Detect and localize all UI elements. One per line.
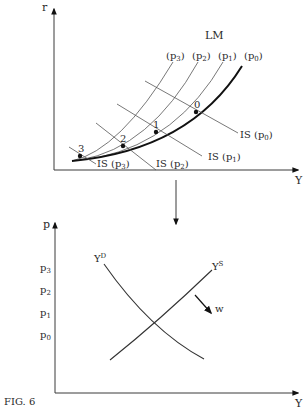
equilibrium-point-2 [121,144,125,148]
p-axis-label: p [43,218,50,231]
top-chart-is-lm: r Y LM (p3) (p2) (p1) (p0) IS (p0) [42,1,303,187]
lm-label-p1: (p1) [218,50,237,63]
is-label-p2: IS (p2) [156,158,189,171]
y-axis-top-label: Y [294,174,303,187]
price-tick-p0: p0 [40,329,51,342]
price-tick-p3: p3 [40,262,51,275]
lm-label-p0: (p0) [244,50,263,63]
lm-label-p3: (p3) [166,50,185,63]
aggregate-supply-curve [110,270,212,360]
is-label-p3: IS (p3) [97,158,130,171]
figure-caption: FIG. 6 [4,396,35,407]
r-axis-label: r [42,1,48,14]
wage-label: w [215,303,224,314]
fig-6-diagram: r Y LM (p3) (p2) (p1) (p0) IS (p0) [0,0,307,417]
equilibrium-point-1 [154,130,158,134]
equilibrium-point-3 [78,154,82,158]
lm-label: LM [205,29,224,42]
supply-label: YS [211,260,224,272]
lm-label-p2: (p2) [192,50,211,63]
price-tick-p1: p1 [40,307,51,320]
point-label-2: 2 [120,133,126,144]
bottom-chart-ad-as: p Y p3 p2 p1 p0 YD YS w [40,218,303,410]
demand-label: YD [93,252,107,264]
is-label-p1: IS (p1) [208,151,241,164]
point-label-1: 1 [153,119,159,130]
wage-shift-arrow-icon [195,295,211,313]
y-axis-bottom-label: Y [294,397,303,410]
aggregate-demand-curve [104,264,204,359]
equilibrium-point-0 [194,110,198,114]
price-tick-p2: p2 [40,284,51,297]
point-label-3: 3 [78,143,84,154]
lm-curve-p0 [72,66,242,161]
point-label-0: 0 [194,99,200,110]
is-label-p0: IS (p0) [240,129,273,142]
